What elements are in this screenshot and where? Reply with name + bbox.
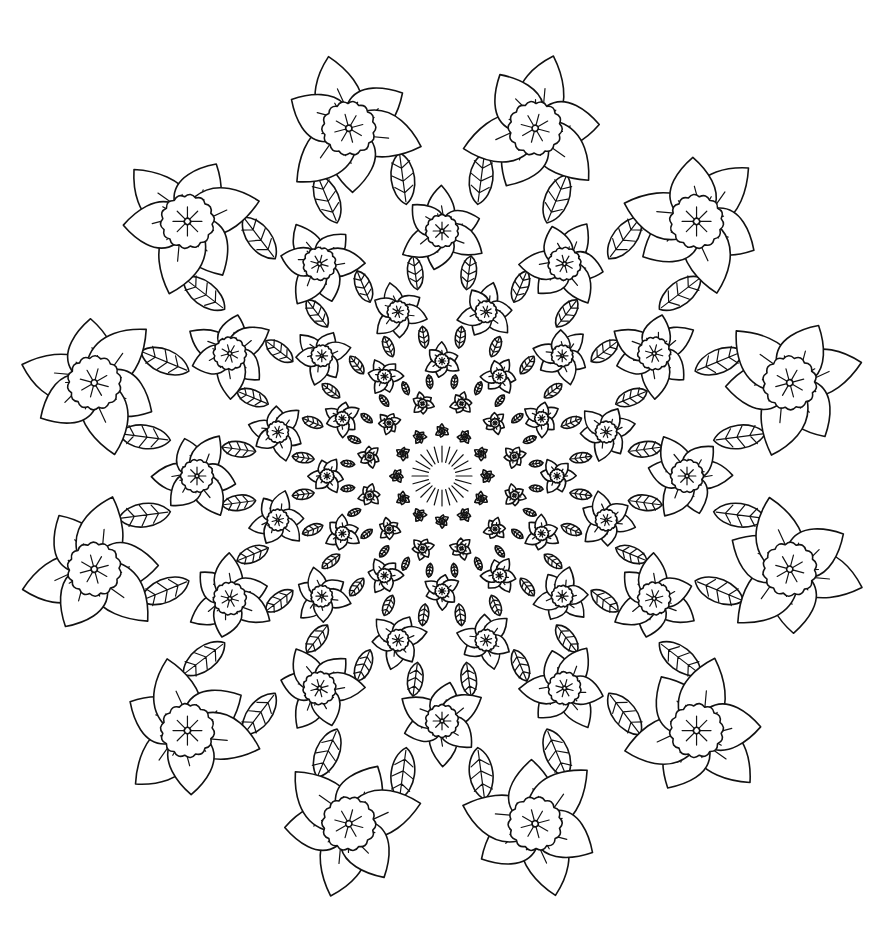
leaf-icon [380, 593, 398, 617]
daffodil-flower-icon [393, 443, 412, 463]
daffodil-flower-icon [447, 389, 477, 418]
daffodil-flower-icon [408, 389, 438, 418]
leaf-icon [466, 746, 496, 801]
leaf-icon [569, 488, 592, 501]
leaf-icon [459, 661, 479, 697]
leaf-icon [522, 434, 537, 445]
daffodil-flower-icon [472, 444, 491, 464]
leaf-icon [473, 556, 484, 571]
leaf-icon [517, 575, 538, 598]
leaf-icon [350, 268, 377, 305]
leaf-icon [627, 493, 663, 513]
mandala-artwork [0, 0, 895, 942]
leaf-icon [559, 414, 583, 432]
daffodil-flower-icon [435, 424, 450, 438]
leaf-icon [346, 353, 367, 376]
daffodil-flower-icon [479, 406, 513, 440]
leaf-icon [541, 551, 564, 572]
leaf-icon [691, 570, 748, 612]
daffodil-flower-icon [316, 508, 367, 560]
daffodil-flower-icon [435, 515, 450, 529]
daffodil-flower-icon [540, 457, 577, 496]
leaf-icon [261, 335, 297, 368]
leaf-icon [301, 620, 334, 656]
leaf-icon [507, 647, 534, 684]
daffodil-flower-icon [409, 506, 429, 525]
leaf-icon [347, 434, 362, 445]
leaf-icon [522, 507, 537, 518]
leaf-icon [292, 451, 315, 464]
leaf-icon [517, 353, 538, 376]
leaf-icon [541, 380, 564, 401]
flower-ring-fourth-ring [307, 341, 576, 610]
leaf-icon [417, 603, 430, 626]
daffodil-flower-icon [316, 391, 367, 443]
leaf-icon [292, 488, 315, 501]
leaf-icon [493, 393, 507, 408]
leaf-icon [319, 380, 342, 401]
leaf-icon [347, 507, 362, 518]
leaf-icon [221, 439, 257, 459]
daffodil-flower-icon [422, 574, 461, 611]
leaf-icon [550, 295, 583, 331]
daffodil-flower-icon [410, 427, 430, 446]
leaf-icon [559, 521, 583, 539]
leaf-icon [405, 255, 425, 291]
daffodil-flower-icon [517, 508, 568, 560]
leaf-icon [473, 381, 484, 396]
center-star [412, 446, 472, 506]
leaf-icon [400, 381, 411, 396]
leaf-icon [301, 414, 325, 432]
leaf-icon [405, 661, 425, 697]
daffodil-flower-icon [355, 441, 384, 471]
daffodil-flower-icon [455, 506, 475, 525]
leaf-icon [426, 563, 434, 578]
leaf-icon [400, 556, 411, 571]
mandala-coloring-page [0, 0, 895, 942]
leaf-icon [234, 541, 271, 568]
daffodil-flower-icon [355, 481, 384, 511]
leaf-icon [340, 460, 355, 468]
daffodil-flower-icon [501, 481, 530, 511]
flower-ring-second-ring [151, 185, 734, 768]
leaf-icon [380, 335, 398, 359]
leaf-icon [454, 326, 467, 349]
leaf-icon [359, 411, 374, 425]
leaf-icon [712, 422, 767, 452]
leaf-icon [586, 584, 622, 617]
leaf-icon [627, 439, 663, 459]
daffodil-flower-icon [474, 551, 526, 602]
leaf-icon [529, 484, 544, 492]
leaf-icon [301, 521, 325, 539]
daffodil-flower-icon [455, 427, 475, 446]
leaf-icon [450, 374, 458, 389]
leaf-icon [510, 527, 525, 541]
leaf-icon [569, 451, 592, 464]
leaf-icon [454, 603, 467, 626]
daffodil-flower-icon [481, 469, 495, 484]
leaf-icon [417, 326, 430, 349]
leaf-icon [510, 411, 525, 425]
leaf-icon [493, 544, 507, 559]
leaf-icon [136, 340, 193, 382]
leaf-icon [450, 563, 458, 578]
flower-ring-inner-ring [390, 424, 495, 529]
daffodil-flower-icon [357, 551, 409, 602]
daffodil-flower-icon [517, 392, 568, 444]
daffodil-flower-icon [407, 535, 437, 564]
flower-ring-fifth-ring [355, 389, 530, 564]
daffodil-flower-icon [390, 469, 404, 484]
daffodil-flower-icon [474, 350, 526, 401]
daffodil-flower-icon [372, 513, 406, 547]
leaf-icon [221, 493, 257, 513]
daffodil-flower-icon [472, 489, 491, 509]
leaf-icon [319, 551, 342, 572]
daffodil-flower-icon [372, 406, 406, 440]
leaf-icon [529, 460, 544, 468]
leaf-icon [388, 151, 418, 206]
leaf-icon [117, 500, 172, 530]
leaf-icon [340, 484, 355, 492]
daffodil-flower-icon [358, 350, 410, 401]
leaf-icon [613, 384, 650, 411]
daffodil-flower-icon [393, 489, 412, 509]
